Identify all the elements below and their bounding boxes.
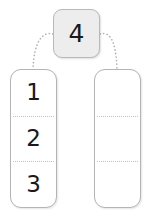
source-card-value: 4 [69,21,85,46]
source-card[interactable]: 4 [53,9,100,58]
connector-to-right-column [100,33,117,69]
right-column[interactable] [94,69,141,208]
right-column-cell-3[interactable] [95,161,140,207]
right-column-cell-2[interactable] [95,116,140,162]
diagram-canvas: 4 1 2 3 [0,0,152,222]
cell-value: 2 [26,127,41,150]
cell-value: 3 [26,173,41,196]
right-column-cell-1[interactable] [95,70,140,116]
left-column-cell-3[interactable]: 3 [11,161,56,207]
left-column-cell-2[interactable]: 2 [11,116,56,162]
connector-to-left-column [33,33,53,69]
cell-value: 1 [26,81,41,104]
left-column[interactable]: 1 2 3 [10,69,57,208]
left-column-cell-1[interactable]: 1 [11,70,56,116]
